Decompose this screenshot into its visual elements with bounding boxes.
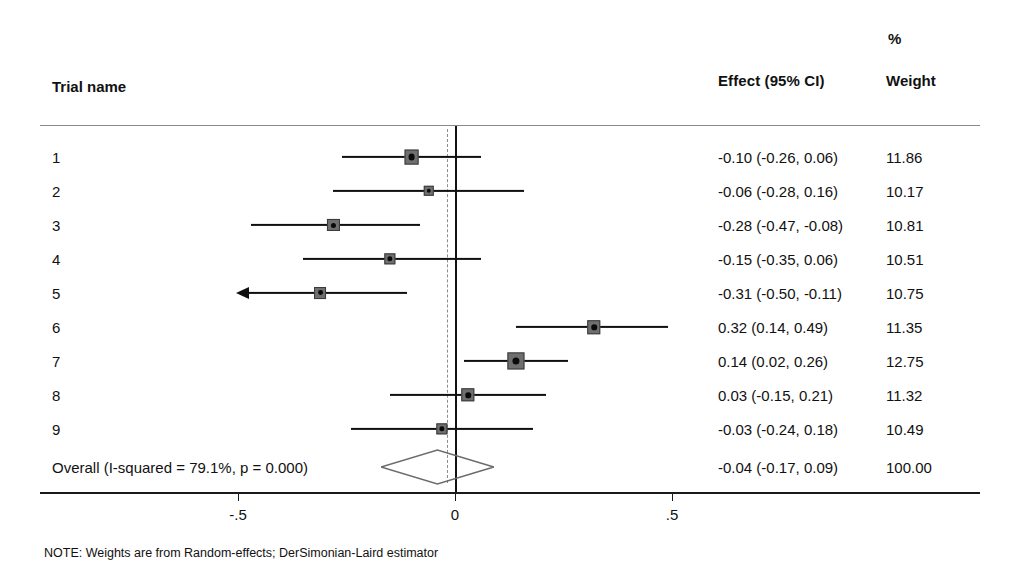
effect-marker: [384, 253, 395, 264]
weight-value: 12.75: [886, 353, 924, 370]
ci-truncation-arrow-icon: [236, 287, 249, 299]
table-row[interactable]: 4-0.15 (-0.35, 0.06)10.51: [0, 242, 1031, 276]
study-label: 7: [52, 353, 60, 370]
overall-weight-value: 100.00: [886, 459, 932, 476]
effect-value: -0.03 (-0.24, 0.18): [718, 421, 838, 438]
table-row[interactable]: 5-0.31 (-0.50, -0.11)10.75: [0, 276, 1031, 310]
table-row[interactable]: 1-0.10 (-0.26, 0.06)11.86: [0, 140, 1031, 174]
effect-marker: [461, 388, 474, 401]
study-label: 8: [52, 387, 60, 404]
study-label: 5: [52, 285, 60, 302]
study-label: 9: [52, 421, 60, 438]
table-row[interactable]: 80.03 (-0.15, 0.21)11.32: [0, 378, 1031, 412]
weight-value: 10.51: [886, 251, 924, 268]
effect-value: -0.28 (-0.47, -0.08): [718, 217, 843, 234]
axis-tick-label: -.5: [229, 506, 247, 523]
effect-value: -0.06 (-0.28, 0.16): [718, 183, 838, 200]
pooled-effect-diamond: [381, 449, 494, 485]
percent-header: %: [888, 30, 978, 47]
effect-value: 0.32 (0.14, 0.49): [718, 319, 828, 336]
effect-marker: [404, 150, 419, 165]
axis-tick-label: .5: [666, 506, 679, 523]
axis-tick: [455, 492, 456, 501]
weight-value: 10.49: [886, 421, 924, 438]
study-label: 3: [52, 217, 60, 234]
overall-row[interactable]: Overall (I-squared = 79.1%, p = 0.000)-0…: [0, 448, 1031, 486]
effect-value: -0.15 (-0.35, 0.06): [718, 251, 838, 268]
x-axis-line: [40, 492, 980, 494]
table-row[interactable]: 70.14 (0.02, 0.26)12.75: [0, 344, 1031, 378]
effect-marker: [587, 320, 601, 334]
effect-marker: [424, 186, 434, 196]
trial-name-header: Trial name: [52, 78, 126, 95]
table-row[interactable]: 60.32 (0.14, 0.49)11.35: [0, 310, 1031, 344]
effect-value: -0.10 (-0.26, 0.06): [718, 149, 838, 166]
effect-value: 0.14 (0.02, 0.26): [718, 353, 828, 370]
axis-tick: [672, 492, 673, 501]
weight-value: 10.81: [886, 217, 924, 234]
confidence-interval-line: [249, 292, 407, 294]
effect-marker: [327, 219, 339, 231]
table-row[interactable]: 3-0.28 (-0.47, -0.08)10.81: [0, 208, 1031, 242]
weight-value: 11.35: [886, 319, 922, 336]
overall-effect-value: -0.04 (-0.17, 0.09): [718, 459, 838, 476]
effect-value: 0.03 (-0.15, 0.21): [718, 387, 833, 404]
axis-tick: [238, 492, 239, 501]
effect-marker: [314, 287, 326, 299]
weight-value: 11.32: [886, 387, 922, 404]
forest-plot: % Effect (95% CI) Weight Trial name 1-0.…: [0, 0, 1031, 574]
study-label: 4: [52, 251, 60, 268]
study-label: 6: [52, 319, 60, 336]
header-divider: [40, 125, 980, 126]
effect-marker: [507, 352, 524, 369]
axis-tick-label: 0: [451, 506, 459, 523]
effect-header: Effect (95% CI): [718, 72, 878, 89]
effect-marker: [436, 423, 447, 434]
footnote: NOTE: Weights are from Random-effects; D…: [44, 546, 438, 560]
study-label: 2: [52, 183, 60, 200]
table-row[interactable]: 2-0.06 (-0.28, 0.16)10.17: [0, 174, 1031, 208]
overall-label: Overall (I-squared = 79.1%, p = 0.000): [52, 459, 308, 476]
weight-value: 10.75: [886, 285, 924, 302]
effect-value: -0.31 (-0.50, -0.11): [718, 285, 842, 302]
weight-header: Weight: [886, 72, 986, 89]
weight-value: 11.86: [886, 149, 922, 166]
study-label: 1: [52, 149, 60, 166]
weight-value: 10.17: [886, 183, 924, 200]
table-row[interactable]: 9-0.03 (-0.24, 0.18)10.49: [0, 412, 1031, 446]
